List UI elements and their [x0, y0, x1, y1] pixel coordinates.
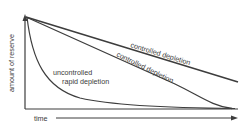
x-axis-label: time: [34, 114, 48, 123]
depletion-diagram: controlled depletion controlled depletio…: [0, 0, 243, 125]
label-uncontrolled: uncontrolled: [53, 68, 92, 77]
time-arrow-icon: [231, 116, 238, 121]
label-rapid-depletion: rapid depletion: [62, 77, 109, 86]
y-axis-label: amount of reserve: [7, 34, 16, 92]
